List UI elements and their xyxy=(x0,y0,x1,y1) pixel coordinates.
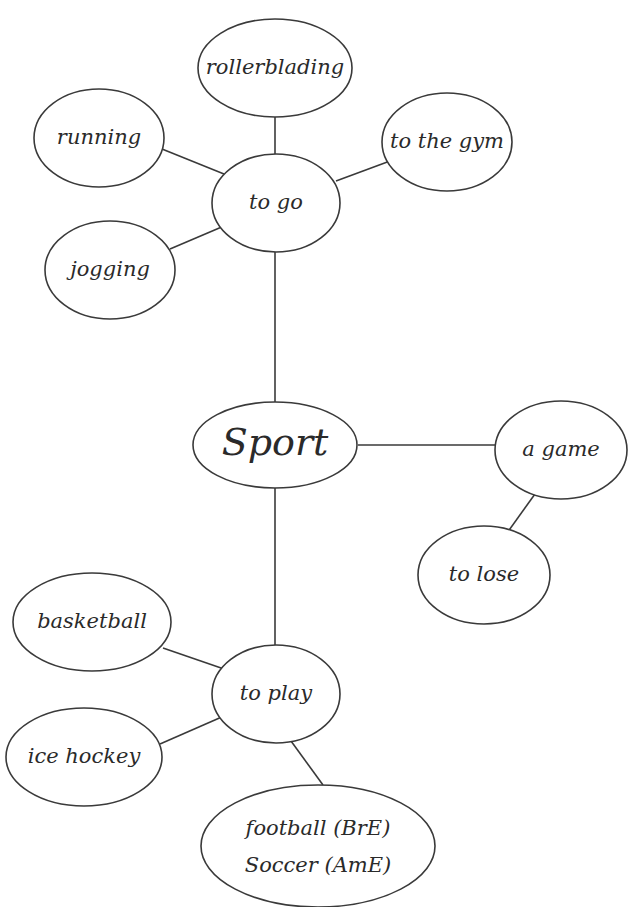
node-to-go: to go xyxy=(212,154,340,252)
node-a-game: a game xyxy=(495,401,627,499)
connector-line xyxy=(160,716,224,744)
node-ice-hockey: ice hockey xyxy=(6,708,162,806)
node-ellipse xyxy=(201,785,435,907)
node-label: a game xyxy=(522,437,600,461)
connector-line xyxy=(291,741,323,785)
node-football: football (BrE)Soccer (AmE) xyxy=(201,785,435,907)
connector-line xyxy=(336,161,390,181)
node-label: jogging xyxy=(66,257,150,281)
node-label: to go xyxy=(249,190,303,214)
node-label: basketball xyxy=(37,609,147,633)
node-label: Sport xyxy=(222,420,329,464)
connector-line xyxy=(163,648,224,669)
node-to-lose: to lose xyxy=(418,526,550,624)
node-label: Soccer (AmE) xyxy=(245,853,392,877)
node-label: to the gym xyxy=(390,129,504,153)
node-to-play: to play xyxy=(212,645,340,743)
node-jogging: jogging xyxy=(45,221,175,319)
node-label: football (BrE) xyxy=(244,816,391,840)
node-label: to play xyxy=(240,681,313,705)
connector-line xyxy=(170,226,224,249)
node-rollerblading: rollerblading xyxy=(198,19,352,117)
node-label: ice hockey xyxy=(28,744,142,768)
sport-mind-map: Sportto gorollerbladingrunningto the gym… xyxy=(0,0,642,907)
word-nodes: Sportto gorollerbladingrunningto the gym… xyxy=(6,19,627,907)
node-label: running xyxy=(57,125,141,149)
node-label: to lose xyxy=(449,562,519,586)
node-running: running xyxy=(34,89,164,187)
node-basketball: basketball xyxy=(13,573,171,671)
node-label: rollerblading xyxy=(206,55,344,79)
connector-line xyxy=(162,149,224,174)
node-sport: Sport xyxy=(193,402,357,488)
node-to-the-gym: to the gym xyxy=(382,93,512,191)
